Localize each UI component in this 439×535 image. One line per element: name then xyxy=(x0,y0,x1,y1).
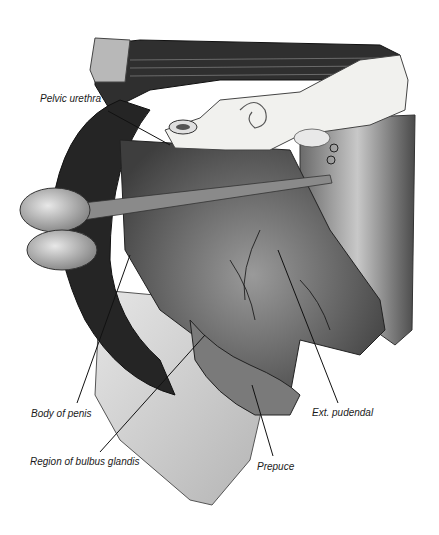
label-pelvic-urethra: Pelvic urethra xyxy=(40,93,101,105)
label-region-of-bulbus-glandis: Region of bulbus glandis xyxy=(30,456,140,468)
label-ext-pudendal: Ext. pudendal xyxy=(312,407,373,419)
label-body-of-penis: Body of penis xyxy=(31,408,92,420)
label-prepuce: Prepuce xyxy=(257,461,294,473)
testis-upper xyxy=(20,188,90,232)
anatomical-figure: Pelvic urethra Body of penis Region of b… xyxy=(0,0,439,535)
muscle-stub xyxy=(90,38,130,82)
testis-lower xyxy=(27,230,97,270)
illustration xyxy=(0,0,439,535)
